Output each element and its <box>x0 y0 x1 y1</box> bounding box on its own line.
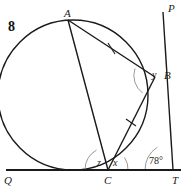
point-label-C: C <box>104 175 111 186</box>
angle-arc-x <box>125 158 129 171</box>
angle-label-x: x <box>113 158 117 168</box>
angle-label-y: y <box>152 70 156 80</box>
angle-arc-y <box>134 69 143 94</box>
segment-PT <box>163 12 173 170</box>
point-label-A: A <box>64 8 71 19</box>
angle-label-z: z <box>97 158 101 168</box>
angle-label-78-degrees: 78° <box>149 156 163 166</box>
tick-mark-AB <box>108 43 115 54</box>
point-label-B: B <box>164 70 171 81</box>
geometry-drawing <box>0 0 186 196</box>
point-label-T: T <box>172 175 178 186</box>
geometry-figure: 8 A B P Q C T z x y 78° <box>0 0 186 196</box>
point-label-Q: Q <box>4 175 12 186</box>
point-label-P: P <box>168 3 175 14</box>
